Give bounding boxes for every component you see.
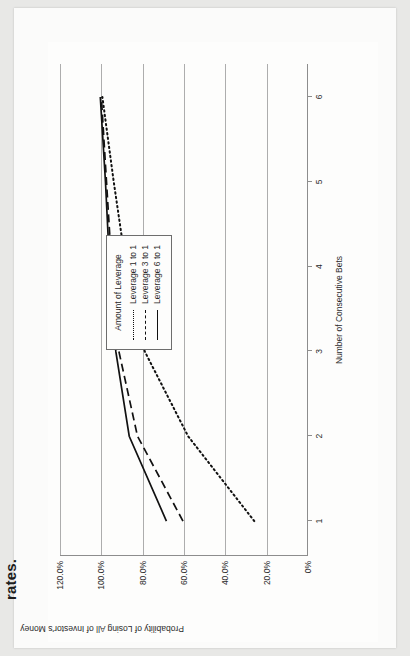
- legend-swatch-dashed: [145, 310, 146, 340]
- x-tick-label: 4: [314, 264, 324, 269]
- y-axis-title: Probability of Losing All of Investor's …: [20, 624, 184, 634]
- plot-area: 0%20.0%40.0%60.0%80.0%100.0%120.0% 12345…: [60, 64, 308, 556]
- legend-entry: Leverage 1 to 1: [128, 245, 138, 340]
- scanned-page: rates. 0%20.0%40.0%60.0%80.0%100.0%120.0…: [14, 8, 396, 648]
- legend-swatch-dotted: [133, 310, 134, 340]
- y-tick-label: 80.0%: [138, 561, 148, 585]
- y-tick-label: 120.0%: [55, 561, 65, 590]
- legend-label: Leverage 6 to 1: [152, 245, 162, 304]
- x-tick-label: 1: [314, 519, 324, 524]
- x-tick-label: 2: [314, 434, 324, 439]
- legend-swatch-solid: [157, 310, 158, 340]
- y-tick-label: 100.0%: [96, 561, 106, 590]
- legend-label: Leverage 3 to 1: [140, 245, 150, 304]
- y-tick-label: 60.0%: [179, 561, 189, 585]
- x-axis-title: Number of Consecutive Bets: [334, 64, 344, 556]
- x-tick-label: 5: [314, 179, 324, 184]
- y-tick-label: 20.0%: [262, 561, 272, 585]
- series-lines: [60, 63, 308, 555]
- legend-label: Leverage 1 to 1: [128, 245, 138, 304]
- legend-entries: Leverage 1 to 1Leverage 3 to 1Leverage 6…: [128, 245, 162, 340]
- legend-entry: Leverage 3 to 1: [140, 245, 150, 340]
- chart-legend: Amount of Leverage Leverage 1 to 1Levera…: [106, 235, 172, 350]
- legend-title: Amount of Leverage: [113, 245, 123, 340]
- x-tick-label: 6: [314, 95, 324, 100]
- x-tick-label: 3: [314, 349, 324, 354]
- chart-figure: 0%20.0%40.0%60.0%80.0%100.0%120.0% 12345…: [48, 42, 378, 642]
- y-tick-label: 40.0%: [220, 561, 230, 585]
- legend-entry: Leverage 6 to 1: [152, 245, 162, 340]
- rotated-chart-container: 0%20.0%40.0%60.0%80.0%100.0%120.0% 12345…: [48, 42, 378, 642]
- page-caption: rates.: [2, 480, 19, 600]
- y-tick-label: 0%: [303, 561, 313, 573]
